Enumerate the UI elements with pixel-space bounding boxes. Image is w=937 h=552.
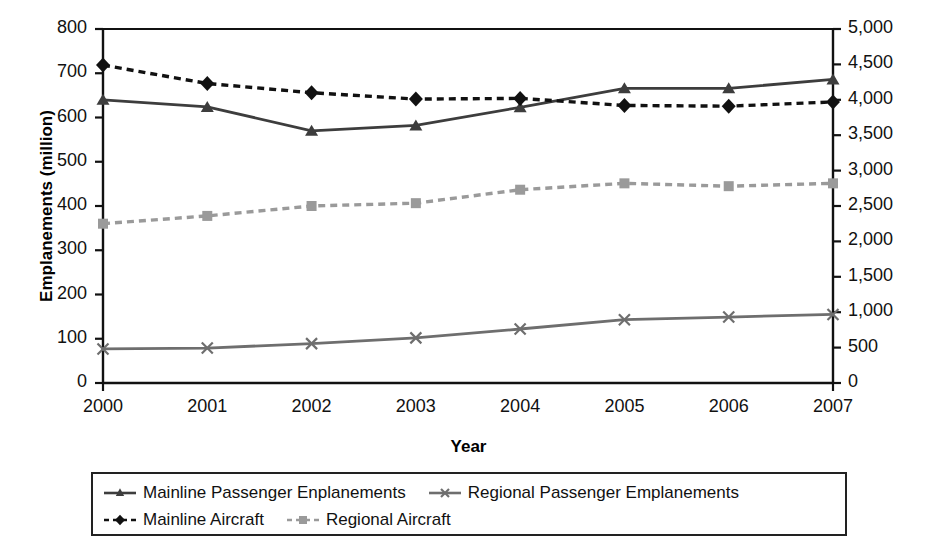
legend-swatch-cross-solid-icon [428,486,462,500]
legend-row-2: Mainline Aircraft Regional Aircraft [103,506,835,533]
legend-item-regional-aircraft[interactable]: Regional Aircraft [286,510,451,530]
legend-label-regional-passenger: Regional Passenger Emplanements [468,483,739,503]
legend-swatch-diamond-dashed-icon [103,513,137,527]
plot-area [0,0,937,552]
legend-swatch-square-dashed-icon [286,513,320,527]
legend-item-mainline-aircraft[interactable]: Mainline Aircraft [103,510,264,530]
legend-label-mainline-aircraft: Mainline Aircraft [143,510,264,530]
chart-figure: Emplanements (million) Aircraft Year 010… [0,0,937,552]
legend-item-mainline-passenger[interactable]: Mainline Passenger Enplanements [103,483,406,503]
chart-legend: Mainline Passenger Enplanements Regional… [91,472,847,536]
legend-item-regional-passenger[interactable]: Regional Passenger Emplanements [428,483,739,503]
chart-series-3 [98,178,838,228]
legend-label-mainline-passenger: Mainline Passenger Enplanements [143,483,406,503]
legend-swatch-triangle-solid-icon [103,486,137,500]
legend-row-1: Mainline Passenger Enplanements Regional… [103,479,835,506]
legend-label-regional-aircraft: Regional Aircraft [326,510,451,530]
chart-series-1 [98,309,839,355]
